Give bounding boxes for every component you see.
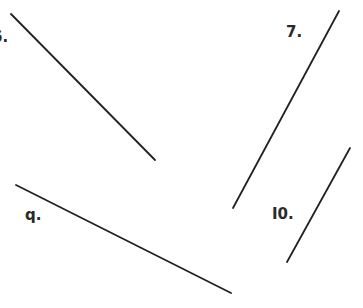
item-label-6: 6. [0,30,8,45]
item-label-9: q. [25,208,41,223]
line-segment-9 [16,185,231,293]
line-segment-6 [11,14,155,160]
line-segments-canvas [0,0,363,308]
line-segment-10 [287,148,350,262]
item-label-10: I0. [272,207,294,222]
item-label-7: 7. [286,25,302,40]
